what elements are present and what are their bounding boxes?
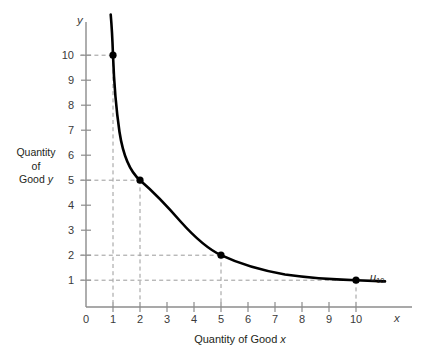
data-point-1-10: [109, 52, 116, 59]
x-tick-label-8: 8: [292, 314, 312, 325]
x-tick-label-4: 4: [184, 314, 204, 325]
y-axis-letter: y: [77, 15, 83, 27]
y-tick-label-4: 4: [50, 200, 74, 211]
data-point-markers: [109, 52, 359, 284]
y-axis-title-good: Good: [19, 173, 48, 185]
x-tick-label-5: 5: [211, 314, 231, 325]
x-tick-label-0: 0: [76, 314, 96, 325]
y-axis-title: Quantity of Good y: [4, 146, 68, 187]
x-tick-label-7: 7: [265, 314, 285, 325]
y-tick-label-9: 9: [50, 75, 74, 86]
x-axis-letter: x: [394, 313, 400, 325]
indifference-curve-chart: 10 9 8 7 6 5 4 3 2 1 0 1 2 3 4 5 6 7 8 9…: [0, 0, 430, 362]
y-tick-label-2: 2: [50, 250, 74, 261]
y-tick-label-10: 10: [50, 50, 74, 61]
y-axis-title-line-3: Good y: [4, 173, 68, 187]
x-tick-label-3: 3: [157, 314, 177, 325]
x-tick-label-6: 6: [238, 314, 258, 325]
x-tick-label-10: 10: [346, 314, 366, 325]
data-point-5-2: [217, 252, 224, 259]
x-tick-label-9: 9: [319, 314, 339, 325]
y-axis-title-line-2: of: [4, 160, 68, 174]
y-tick-label-3: 3: [50, 225, 74, 236]
y-axis-title-line-1: Quantity: [4, 146, 68, 160]
axis-lines: [86, 22, 412, 307]
x-tick-label-2: 2: [130, 314, 150, 325]
y-tick-label-8: 8: [50, 100, 74, 111]
x-axis-title-text: Quantity of Good: [194, 333, 280, 345]
x-axis-title: Quantity of Good x: [90, 334, 390, 345]
indifference-curve-u10: [111, 15, 385, 282]
data-point-2-5: [136, 177, 143, 184]
curve-label-subscript: 10: [376, 276, 384, 285]
y-tick-label-1: 1: [50, 275, 74, 286]
data-point-10-1: [352, 277, 359, 284]
x-axis-title-variable: x: [280, 333, 286, 345]
x-tick-label-1: 1: [103, 314, 123, 325]
curve-label-u10: u10: [370, 272, 384, 283]
guide-lines: [80, 55, 356, 302]
y-axis-title-variable: y: [48, 173, 53, 185]
y-tick-label-7: 7: [50, 125, 74, 136]
